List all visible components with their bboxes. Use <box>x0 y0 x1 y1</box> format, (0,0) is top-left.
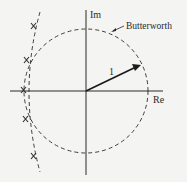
pole-x-icon <box>21 87 26 93</box>
real-axis-label: Re <box>153 94 165 105</box>
pole-x-icon <box>24 57 29 63</box>
pole-plot-diagram: Im Re Butterworth 1 <box>0 0 187 182</box>
butterworth-label: Butterworth <box>126 21 172 31</box>
pole-x-icon <box>31 153 36 159</box>
pole-locus-curve <box>29 12 40 172</box>
imaginary-axis-label: Im <box>90 9 101 20</box>
pole-x-icon <box>23 116 28 122</box>
pole-x-icon <box>31 23 36 29</box>
diagram-canvas: Im Re Butterworth 1 <box>0 0 187 182</box>
radius-label: 1 <box>109 66 114 77</box>
leader-arrowhead-icon <box>111 28 116 32</box>
